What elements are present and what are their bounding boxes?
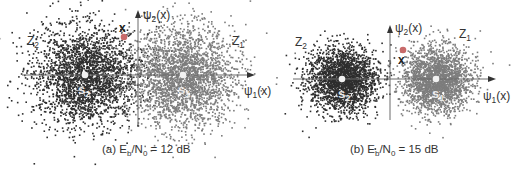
panel-b-caption: (b) Eb/N0 = 15 dB xyxy=(350,143,439,158)
caption-b-suffix: = 15 dB xyxy=(395,143,438,155)
caption-a-mid: /N xyxy=(131,143,143,155)
psi1-axis-label: ψ1(x) xyxy=(244,84,271,100)
caption-a-suffix: = 12 dB xyxy=(147,143,190,155)
psi1-arrow-icon xyxy=(247,72,255,78)
psi1-axis-label: ψ1(x) xyxy=(483,89,510,105)
psi2-axis-label: ψ2(x) xyxy=(143,8,170,24)
psi1-arrow-icon xyxy=(488,76,496,82)
caption-a-prefix: (a) E xyxy=(102,143,127,155)
signal-point-s2 xyxy=(339,76,346,83)
region-z1-label: Z1 xyxy=(459,27,471,43)
cluster-s1 xyxy=(386,25,510,138)
region-z2-label: Z2 xyxy=(295,35,307,51)
caption-b-prefix: (b) E xyxy=(350,143,375,155)
signal-point-s1 xyxy=(433,76,440,83)
received-x-label: x xyxy=(119,21,126,35)
caption-b-mid: /N xyxy=(379,143,391,155)
panel-a-caption: (a) Eb/N0 = 12 dB xyxy=(102,143,191,158)
panel-b-scatter xyxy=(285,25,511,149)
psi2-arrow-icon xyxy=(135,10,141,18)
psi2-arrow-icon xyxy=(387,25,393,33)
signal-point-s2 xyxy=(82,72,89,79)
panel-a-scatter xyxy=(0,0,296,165)
signal-point-s1 xyxy=(180,72,187,79)
region-z1-label: Z1 xyxy=(232,34,244,50)
psi2-axis-label: ψ2(x) xyxy=(395,21,422,37)
panel-b-overlay: ψ2(x)ψ1(x)Z2Z1s2s1x xyxy=(293,21,510,120)
cluster-s2 xyxy=(0,0,172,165)
received-x-label: x xyxy=(398,53,405,67)
figure-canvas: ψ2(x)ψ1(x)Z2Z1s2s1x ψ2(x)ψ1(x)Z2Z1s2s1x xyxy=(0,0,517,170)
